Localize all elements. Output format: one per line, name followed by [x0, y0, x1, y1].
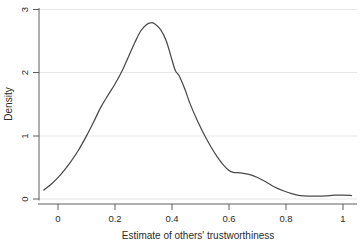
x-axis-tick-labels: 0 0.2 0.4 0.6 0.8 1 [55, 213, 345, 224]
y-tick-label-1: 1 [19, 133, 30, 138]
density-plot-figure: 3 2 1 0 0 0.2 0.4 0.6 0.8 1 Estimate of … [0, 0, 364, 243]
x-axis-title: Estimate of others' trustworthiness [122, 230, 275, 241]
gridlines [39, 10, 357, 200]
y-tick-label-2: 2 [19, 70, 30, 75]
x-tick-label-0.2: 0.2 [108, 213, 121, 224]
x-tick-label-0.4: 0.4 [165, 213, 178, 224]
y-axis-ticks [33, 10, 39, 200]
axis-spines [38, 8, 357, 204]
x-axis-ticks [58, 204, 343, 210]
y-axis-title: Density [3, 87, 14, 120]
x-tick-label-0.6: 0.6 [222, 213, 235, 224]
x-tick-label-0: 0 [55, 213, 60, 224]
chart-canvas: 3 2 1 0 0 0.2 0.4 0.6 0.8 1 Estimate of … [0, 0, 364, 243]
x-tick-label-0.8: 0.8 [279, 213, 292, 224]
density-curve [44, 23, 352, 196]
y-tick-label-0: 0 [19, 196, 30, 201]
y-axis-tick-labels: 3 2 1 0 [19, 7, 30, 202]
x-tick-label-1: 1 [340, 213, 345, 224]
y-tick-label-3: 3 [19, 7, 30, 12]
